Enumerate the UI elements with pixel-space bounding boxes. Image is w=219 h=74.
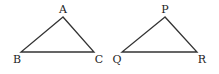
triangle-abc: A B C [13,3,103,66]
triangle-pqr: P Q R [112,3,206,66]
triangles-diagram: A B C P Q R [0,0,219,74]
triangle-abc-shape [21,17,94,52]
vertex-label-r: R [198,53,207,66]
vertex-label-p: P [161,3,169,16]
vertex-label-b: B [13,53,21,66]
vertex-label-q: Q [112,53,121,66]
vertex-label-a: A [58,3,68,16]
triangle-pqr-shape [122,17,197,52]
vertex-label-c: C [95,53,103,66]
